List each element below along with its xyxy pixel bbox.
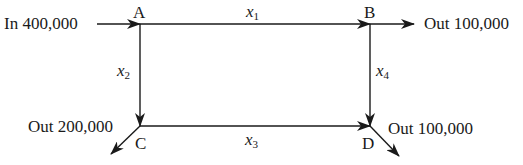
outflow-label-b: Out 100,000 [424, 15, 509, 32]
node-c-label: C [135, 135, 146, 152]
inflow-label-a: In 400,000 [4, 15, 78, 32]
node-b-label: B [364, 4, 375, 21]
outflow-label-c: Out 200,000 [28, 118, 113, 135]
outflow-label-d: Out 100,000 [388, 120, 473, 137]
edge-label-x1: x1 [246, 3, 259, 22]
edge-label-x2: x2 [117, 62, 130, 81]
edge-label-x3: x3 [245, 131, 258, 150]
node-d-label: D [362, 135, 374, 152]
node-a-label: A [133, 4, 145, 21]
edge-label-x4: x4 [376, 62, 389, 81]
